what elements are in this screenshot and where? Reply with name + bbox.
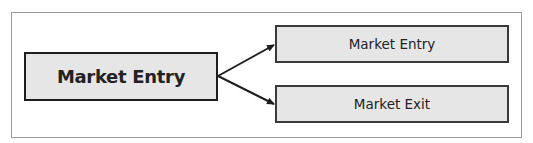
target-node-market-entry: Market Entry xyxy=(275,25,509,63)
source-node-label: Market Entry xyxy=(57,66,185,87)
target-node-label: Market Entry xyxy=(349,36,436,52)
target-node-label: Market Exit xyxy=(354,96,430,112)
target-node-market-exit: Market Exit xyxy=(275,85,509,123)
source-node-market-entry: Market Entry xyxy=(24,52,218,101)
